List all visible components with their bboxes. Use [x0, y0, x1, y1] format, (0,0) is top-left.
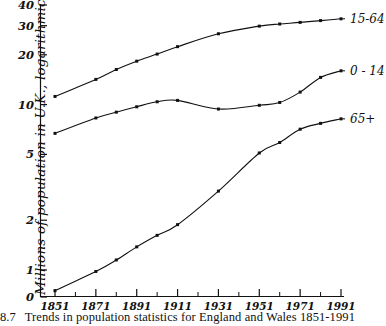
data-point	[319, 76, 322, 79]
data-point	[115, 111, 118, 114]
chart-axes	[41, 4, 345, 297]
data-point	[258, 104, 261, 107]
data-point	[54, 289, 57, 292]
y-tick-label: 40	[8, 0, 34, 12]
data-point	[278, 141, 281, 144]
data-point	[135, 245, 138, 248]
y-tick-label: 1	[8, 263, 34, 277]
data-point	[278, 101, 281, 104]
data-point-markers	[54, 17, 343, 292]
data-point	[156, 100, 159, 103]
series-line-15-64	[55, 19, 341, 97]
data-point	[156, 234, 159, 237]
data-point	[319, 122, 322, 125]
y-tick-marks	[41, 5, 48, 297]
data-point	[176, 45, 179, 48]
figure-container: Millions of population in U.K., logarith…	[0, 0, 386, 326]
series-label-65+: 65+	[350, 112, 375, 126]
data-point	[176, 99, 179, 102]
y-tick-label: 20	[8, 48, 34, 62]
series-label-0-14: 0 - 14	[350, 64, 385, 78]
data-point	[115, 68, 118, 71]
data-point	[217, 190, 220, 193]
chart-plot-area	[0, 0, 386, 326]
data-point	[135, 105, 138, 108]
data-point	[278, 23, 281, 26]
y-tick-label: 0	[8, 290, 34, 304]
data-point	[299, 128, 302, 131]
data-point	[258, 151, 261, 154]
data-point	[319, 19, 322, 22]
figure-caption: 8.7 Trends in population statistics for …	[0, 310, 386, 325]
data-point	[115, 258, 118, 261]
y-tick-label: 30	[8, 19, 34, 33]
series-line-0-14	[55, 71, 341, 134]
series-label-leaders	[341, 19, 345, 119]
data-point	[94, 116, 97, 119]
caption-text: Trends in population statistics for Engl…	[25, 310, 355, 324]
caption-number: 8.7	[0, 310, 16, 324]
y-tick-label: 2	[8, 213, 34, 227]
data-point	[217, 108, 220, 111]
series-label-15-64: 15-64	[350, 12, 385, 26]
data-point	[176, 223, 179, 226]
y-tick-label: 10	[8, 98, 34, 112]
data-point	[94, 270, 97, 273]
data-point	[258, 25, 261, 28]
data-point	[156, 53, 159, 56]
x-tick-marks	[55, 289, 341, 297]
y-tick-label: 5	[8, 147, 34, 161]
data-point	[54, 95, 57, 98]
data-series-lines	[55, 19, 341, 291]
data-point	[217, 32, 220, 35]
data-point	[94, 78, 97, 81]
data-point	[135, 60, 138, 63]
data-point	[299, 91, 302, 94]
data-point	[299, 21, 302, 24]
series-line-65+	[55, 119, 341, 291]
data-point	[54, 132, 57, 135]
